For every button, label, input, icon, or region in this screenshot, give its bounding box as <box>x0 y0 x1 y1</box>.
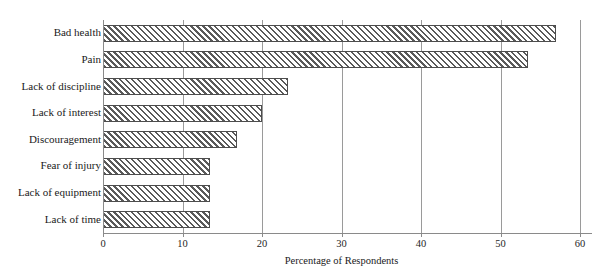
y-axis-label: Lack of interest <box>3 106 101 119</box>
x-tick-30 <box>342 233 343 237</box>
x-tick-20 <box>262 233 263 237</box>
x-axis-title: Percentage of Respondents <box>103 254 580 267</box>
y-axis-line <box>103 20 104 234</box>
bar <box>103 105 262 122</box>
x-tick-10 <box>183 233 184 237</box>
x-tick-label-60: 60 <box>560 238 600 250</box>
bar <box>103 51 528 68</box>
bar <box>103 211 210 228</box>
y-axis-label: Pain <box>3 53 101 66</box>
y-axis-label: Fear of injury <box>3 159 101 172</box>
x-tick-50 <box>501 233 502 237</box>
bar-chart: Bad healthPainLack of disciplineLack of … <box>0 0 612 275</box>
y-axis-label: Lack of equipment <box>3 186 101 199</box>
x-tick-40 <box>421 233 422 237</box>
gridline-60 <box>580 20 581 233</box>
y-axis-category-labels: Bad healthPainLack of disciplineLack of … <box>0 20 101 233</box>
x-tick-label-0: 0 <box>83 238 123 250</box>
bar <box>103 131 237 148</box>
x-tick-label-40: 40 <box>401 238 441 250</box>
x-tick-label-10: 10 <box>163 238 203 250</box>
y-axis-label: Discouragement <box>3 133 101 146</box>
x-tick-60 <box>580 233 581 237</box>
x-tick-label-50: 50 <box>481 238 521 250</box>
bar <box>103 158 210 175</box>
x-tick-label-20: 20 <box>242 238 282 250</box>
y-axis-label: Lack of time <box>3 213 101 226</box>
bar <box>103 185 210 202</box>
bar <box>103 25 556 42</box>
x-tick-label-30: 30 <box>322 238 362 250</box>
bar <box>103 78 288 95</box>
y-axis-label: Bad health <box>3 26 101 39</box>
x-axis-line <box>103 233 592 234</box>
x-tick-0 <box>103 233 104 237</box>
plot-area <box>103 20 580 233</box>
y-axis-label: Lack of discipline <box>3 80 101 93</box>
